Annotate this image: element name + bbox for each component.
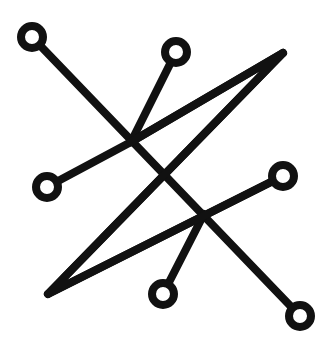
lines-layer [40,45,293,308]
circle-left-icon [36,176,58,198]
circle-top-left-icon [21,26,43,48]
circle-top-middle-icon [165,41,187,63]
circle-right-icon [272,165,294,187]
sigil-svg [0,0,335,353]
circle-bottom-icon [152,283,174,305]
spur-upper-left-to-left-circle [57,142,131,182]
sigil-diagram [0,0,335,353]
circle-bottom-right-icon [289,305,311,327]
